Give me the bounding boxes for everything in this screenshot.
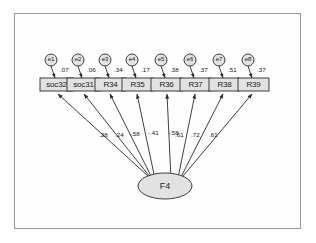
- loading-label-R37: .61: [175, 131, 184, 138]
- indicator-box-group: [40, 78, 269, 91]
- indicator-box-R38: [209, 78, 240, 91]
- loading-label-R34: -.58: [129, 130, 140, 137]
- sem-canvas: [0, 0, 316, 243]
- error-path-e4: [132, 66, 136, 78]
- error-path-e5: [161, 66, 165, 78]
- error-node-e1: [45, 54, 57, 66]
- error-node-e8: [242, 54, 254, 66]
- loading-path-group: [58, 94, 252, 179]
- indicator-box-R37: [180, 78, 211, 91]
- error-path-group: [51, 66, 252, 78]
- residual-label-R36: .38: [170, 66, 179, 73]
- error-path-e3: [105, 66, 109, 78]
- indicator-box-R35: [122, 78, 153, 91]
- loading-path-R36: [167, 94, 171, 179]
- residual-label-R38: .51: [228, 66, 237, 73]
- loading-label-soc31: .24: [115, 131, 124, 138]
- error-path-e6: [190, 66, 194, 78]
- indicator-box-R39: [238, 78, 269, 91]
- error-node-e7: [213, 54, 225, 66]
- error-path-e1: [51, 66, 55, 78]
- residual-label-soc31: .06: [87, 66, 96, 73]
- loading-label-R39: .61: [209, 131, 218, 138]
- indicator-box-R34: [95, 78, 126, 91]
- residual-label-R39: .37: [257, 66, 266, 73]
- error-circle-group: [45, 54, 254, 66]
- residual-label-R37: .37: [199, 66, 208, 73]
- residual-label-soc32: .07: [60, 66, 69, 73]
- latent-factor-ellipse: [138, 173, 192, 199]
- error-node-e3: [99, 54, 111, 66]
- error-path-e8: [248, 66, 252, 78]
- sem-diagram-figure: e1 e2 e3 e4 e5 e6 e7 e8 .07 .06 .34 .17 …: [0, 0, 316, 243]
- residual-label-R35: .17: [141, 66, 150, 73]
- error-node-e6: [184, 54, 196, 66]
- loading-label-R35: -.41: [148, 129, 159, 136]
- loading-label-R38: .72: [191, 131, 200, 138]
- residual-label-R34: .34: [114, 66, 123, 73]
- indicator-box-R36: [151, 78, 182, 91]
- error-path-e7: [219, 66, 223, 78]
- error-path-e2: [78, 66, 82, 78]
- error-node-e4: [126, 54, 138, 66]
- error-node-e2: [72, 54, 84, 66]
- loading-label-soc32: .28: [99, 131, 108, 138]
- error-node-e5: [155, 54, 167, 66]
